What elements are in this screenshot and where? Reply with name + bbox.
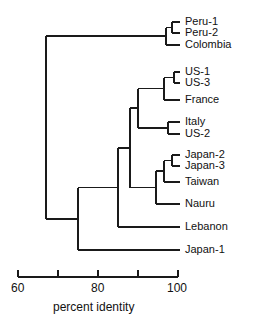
tree-branches — [46, 22, 180, 250]
x-axis-title: percent identity — [53, 301, 134, 313]
leaf-label-us-3: US-3 — [185, 77, 210, 88]
leaf-label-japan-3: Japan-3 — [185, 160, 225, 171]
x-axis — [18, 270, 178, 277]
leaf-label-nauru: Nauru — [185, 198, 215, 209]
leaf-label-lebanon: Lebanon — [185, 221, 228, 232]
leaf-label-japan-1: Japan-1 — [185, 244, 225, 255]
leaf-label-italy: Italy — [185, 116, 205, 127]
leaf-label-colombia: Colombia — [185, 39, 231, 50]
leaf-label-france: France — [185, 94, 219, 105]
tick-label-60: 60 — [11, 282, 24, 294]
leaf-label-us-2: US-2 — [185, 128, 210, 139]
leaf-label-peru-2: Peru-2 — [185, 27, 218, 38]
tick-label-100: 100 — [167, 282, 187, 294]
tick-label-80: 80 — [91, 282, 104, 294]
dendrogram-figure: Peru-1 Peru-2 Colombia US-1 US-3 France … — [0, 0, 254, 322]
leaf-label-taiwan: Taiwan — [185, 176, 219, 187]
